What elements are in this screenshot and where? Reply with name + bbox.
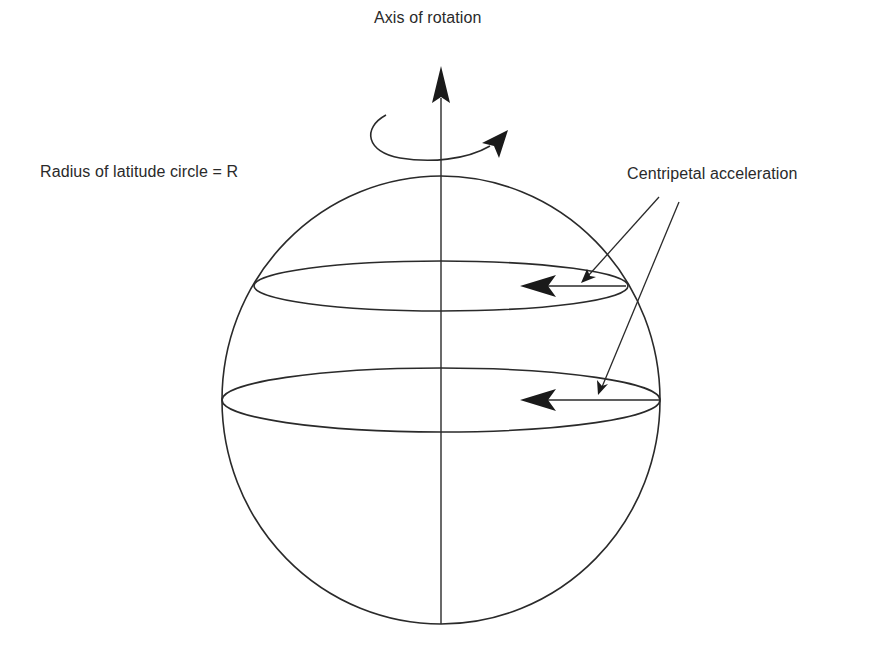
pointer-line-upper [588,197,659,276]
pointer-line-lower [602,202,679,387]
rotation-curl-arc [371,115,490,160]
pointer-arrowhead-lower-icon [597,380,608,395]
sphere-diagram [0,0,884,656]
rotation-arrowhead-icon [482,130,508,158]
axis-arrowhead-icon [432,66,450,103]
